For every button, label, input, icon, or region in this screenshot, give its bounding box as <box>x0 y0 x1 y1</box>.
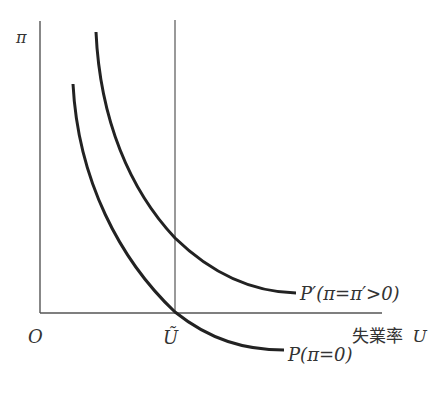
curve-p <box>73 84 284 350</box>
origin-label: O <box>28 326 43 347</box>
curve-p-label: P(π=0) <box>287 344 353 365</box>
y-axis-label: π <box>15 28 27 47</box>
phillips-curve-diagram: π O Ũ 失業率 U P′(π=π′>0) P(π=0) <box>0 0 446 393</box>
x-axis-label-jp: 失業率 <box>352 326 403 346</box>
curve-p-prime-label: P′(π=π′>0) <box>299 283 400 304</box>
u-tilde-label: Ũ <box>163 326 179 348</box>
x-axis-label: 失業率 U <box>352 326 427 346</box>
x-axis-label-var: U <box>412 326 427 346</box>
